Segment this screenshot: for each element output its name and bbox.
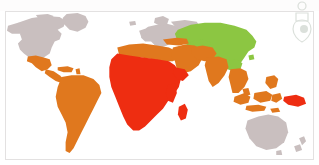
world-map-panel[interactable] xyxy=(5,11,314,160)
world-map-svg[interactable] xyxy=(6,12,313,159)
region-korea[interactable] xyxy=(248,54,254,60)
top-watermark-strip xyxy=(0,0,319,11)
map-widget xyxy=(0,0,319,165)
